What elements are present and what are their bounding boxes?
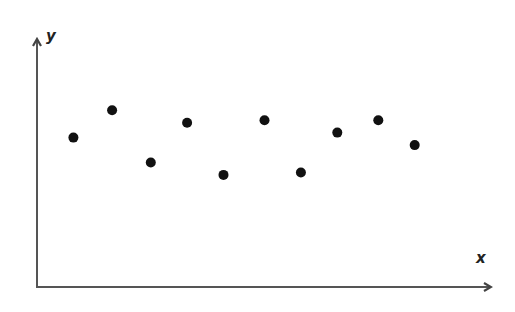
x-axis-label: x <box>475 249 487 267</box>
data-point <box>296 168 306 178</box>
scatter-chart: y x <box>0 0 515 312</box>
data-point <box>182 118 192 128</box>
y-axis-label: y <box>46 27 57 45</box>
data-point <box>410 140 420 150</box>
data-point <box>68 133 78 143</box>
data-point <box>107 105 117 115</box>
data-point <box>260 115 270 125</box>
data-points <box>68 105 419 180</box>
data-point <box>219 170 229 180</box>
data-point <box>146 158 156 168</box>
data-point <box>332 128 342 138</box>
data-point <box>373 115 383 125</box>
